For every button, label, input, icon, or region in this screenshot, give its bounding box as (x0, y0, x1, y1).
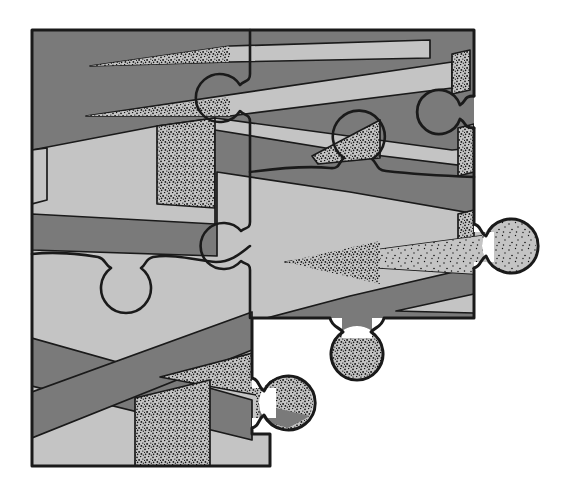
puzzle-canvas (0, 0, 566, 496)
fold-face-center-left (157, 118, 215, 208)
fold-face-left-edge (32, 148, 47, 204)
fold-face-right-mid-1 (458, 124, 474, 176)
puzzle-illustration (0, 0, 566, 496)
fold-face-right-top (452, 50, 470, 94)
